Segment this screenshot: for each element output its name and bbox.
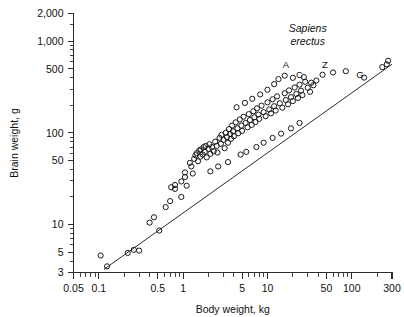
species-annotation: erectus <box>290 35 325 47</box>
point-letter-label: A <box>283 59 290 70</box>
data-point <box>250 96 255 101</box>
data-point <box>184 183 189 188</box>
data-point <box>274 94 279 99</box>
y-tick-label: 1,000 <box>37 35 63 47</box>
y-axis-tick-labels: 3510501005001,0002,000 <box>37 7 63 278</box>
data-point <box>386 58 391 63</box>
y-tick-label: 10 <box>52 218 64 230</box>
y-tick-label: 100 <box>46 127 64 139</box>
data-point <box>290 75 295 80</box>
data-point <box>241 114 246 119</box>
data-point <box>286 88 291 93</box>
plot-area: 0.050.10.5151050100300 3510501005001,000… <box>0 0 404 317</box>
data-point <box>251 109 256 114</box>
data-point <box>151 215 156 220</box>
y-tick-label: 500 <box>46 63 64 75</box>
brain-body-weight-scatter-figure: 0.050.10.5151050100300 3510501005001,000… <box>0 0 404 317</box>
data-point <box>168 199 173 204</box>
data-point <box>259 103 264 108</box>
data-point <box>216 164 221 169</box>
data-point <box>278 131 283 136</box>
data-point <box>276 77 281 82</box>
data-point <box>147 220 152 225</box>
data-point <box>292 85 297 90</box>
allometric-reference-line <box>104 64 392 269</box>
y-tick-label: 3 <box>58 266 64 278</box>
data-point <box>282 73 287 78</box>
chart-annotations: SapienserectusACZG <box>283 22 364 80</box>
x-tick-label: 10 <box>262 282 274 294</box>
data-point <box>98 253 103 258</box>
data-point <box>265 100 270 105</box>
data-point <box>179 194 184 199</box>
x-tick-label: 0.5 <box>150 282 165 294</box>
data-point <box>265 87 270 92</box>
x-tick-label: 50 <box>321 282 333 294</box>
data-point <box>288 126 293 131</box>
data-point <box>179 179 184 184</box>
data-point <box>330 70 335 75</box>
data-point <box>242 100 247 105</box>
x-tick-label: 5 <box>239 282 245 294</box>
data-points <box>98 58 391 269</box>
data-point <box>261 140 266 145</box>
y-tick-label: 50 <box>52 154 64 166</box>
data-point <box>280 105 285 110</box>
data-point <box>320 72 325 77</box>
y-axis-minor-ticks <box>70 25 74 261</box>
data-point <box>307 89 312 94</box>
data-point <box>272 81 277 86</box>
x-tick-label: 0.1 <box>92 282 107 294</box>
data-point <box>297 120 302 125</box>
point-letter-label: G <box>356 69 363 80</box>
y-tick-label: 2,000 <box>37 7 63 19</box>
x-axis-tick-labels: 0.050.10.5151050100300 <box>63 282 401 294</box>
x-axis-major-ticks <box>74 273 393 279</box>
data-point <box>258 92 263 97</box>
data-point <box>254 144 259 149</box>
data-point <box>208 169 213 174</box>
data-point <box>240 128 245 133</box>
x-axis-minor-ticks <box>80 273 377 277</box>
data-point <box>237 117 242 122</box>
data-point <box>244 149 249 154</box>
point-letter-label: C <box>296 69 303 80</box>
data-point <box>343 69 348 74</box>
data-point <box>222 146 227 151</box>
data-point <box>225 159 230 164</box>
data-point <box>297 82 302 87</box>
data-point <box>384 62 389 67</box>
x-tick-label: 1 <box>180 282 186 294</box>
x-tick-label: 100 <box>343 282 361 294</box>
y-tick-label: 5 <box>58 246 64 258</box>
data-point <box>163 204 168 209</box>
data-point <box>270 135 275 140</box>
y-axis-title: Brain weight, g <box>8 108 20 178</box>
data-point <box>314 78 319 83</box>
data-point <box>137 248 142 253</box>
x-tick-label: 300 <box>383 282 401 294</box>
data-point <box>285 102 290 107</box>
x-axis-title: Body weight, kg <box>196 303 270 315</box>
point-letter-label: Z <box>322 59 328 70</box>
data-point <box>190 171 195 176</box>
x-tick-label: 0.05 <box>63 282 84 294</box>
data-point <box>234 105 239 110</box>
species-annotation: Sapiens <box>289 22 328 34</box>
data-point <box>238 152 243 157</box>
